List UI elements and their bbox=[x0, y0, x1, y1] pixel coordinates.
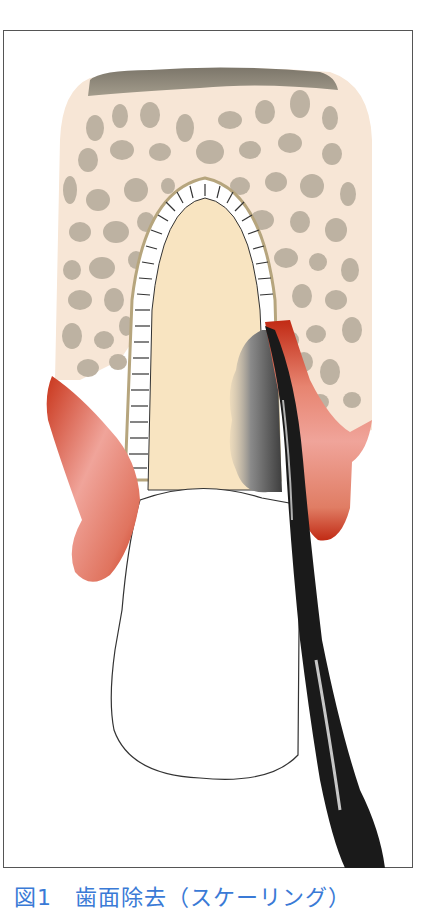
tooth-crown bbox=[111, 488, 300, 779]
figure-caption: 図1 歯面除去（スケーリング） bbox=[14, 879, 351, 911]
inflamed-gingiva-left bbox=[47, 376, 140, 582]
